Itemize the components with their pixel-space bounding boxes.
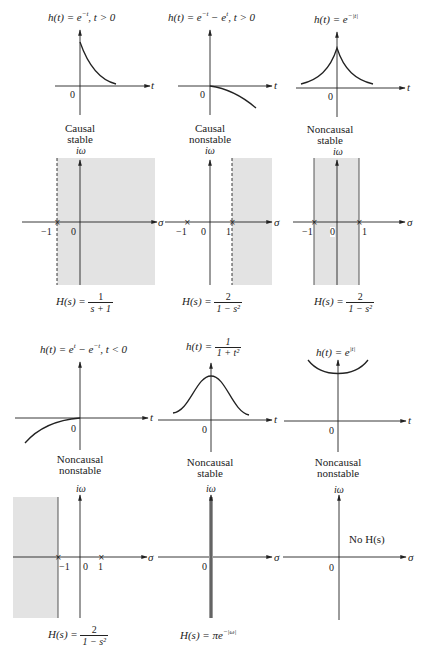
real-axis-label-2: σ	[274, 217, 279, 228]
diverging-curve	[210, 86, 256, 108]
tick-zero-5: 0	[202, 562, 207, 572]
tick-neg-one-2: −1	[176, 227, 187, 237]
h-plot-growing-two-sided	[284, 360, 406, 452]
class-label-1: Causalstable	[35, 123, 125, 145]
class-label-5: Noncausalstable	[165, 457, 255, 479]
h-plot-noncausal-nonstable-left	[15, 362, 148, 450]
t-axis-label-1: t	[151, 80, 154, 91]
origin-label-1: 0	[70, 90, 75, 100]
h-plot-causal-stable	[55, 30, 150, 115]
t-axis-label-5: t	[274, 414, 277, 425]
h-plot-noncausal-stable	[296, 32, 405, 117]
real-axis-label-1: σ	[158, 217, 163, 228]
s-plane-roc-right-of-minus-one: ×	[22, 158, 157, 285]
h-title-5: h(t) = 11 + t²	[186, 337, 241, 358]
h-title-4: h(t) = et − e−t, t < 0	[40, 343, 127, 355]
t-axis-label-3: t	[407, 82, 410, 93]
s-plane-roc-imaginary-axis	[158, 495, 272, 618]
real-axis-label-3: σ	[407, 217, 412, 228]
tick-zero-6: 0	[329, 563, 334, 573]
tick-neg-one-4: −1	[59, 562, 70, 572]
imag-axis-label-5: iω	[206, 484, 216, 494]
tick-zero-4: 0	[83, 562, 88, 572]
imag-axis-label-6: iω	[334, 485, 344, 495]
origin-label-3: 0	[328, 92, 333, 102]
h-title-6: h(t) = e|t|	[316, 346, 355, 358]
transfer-function-1: H(s) = 1s + 1	[56, 291, 113, 314]
decaying-exponential-curve	[80, 42, 116, 84]
h-title-1: h(t) = e−t, t > 0	[48, 11, 115, 23]
imag-axis-label-4: iω	[76, 484, 86, 494]
tick-zero-1: 0	[71, 227, 76, 237]
tick-zero-2: 0	[201, 227, 206, 237]
h-title-2: h(t) = e−t − et, t > 0	[168, 11, 255, 23]
class-label-6: Noncausalnonstable	[293, 457, 383, 479]
tick-neg-one-3: −1	[302, 227, 313, 237]
t-axis-label-6: t	[408, 415, 411, 426]
s-plane-roc-strip: × ×	[293, 158, 405, 285]
svg-text:×: ×	[54, 218, 61, 227]
class-label-2: Causalnonstable	[165, 123, 255, 145]
class-label-3: Noncausalstable	[285, 124, 375, 146]
s-plane-no-transform	[283, 495, 406, 620]
tick-zero-3: 0	[330, 227, 335, 237]
h-plot-causal-nonstable	[178, 30, 272, 115]
t-axis-label-2: t	[274, 80, 277, 91]
real-axis-label-6: σ	[408, 552, 413, 563]
imag-axis-label-3: iω	[333, 147, 343, 157]
s-plane-roc-right-of-one: × ×	[165, 158, 272, 285]
h-title-3: h(t) = e−|t|	[314, 13, 358, 25]
tick-one-2: 1	[226, 227, 231, 237]
h-plot-lorentzian	[158, 363, 272, 452]
imag-axis-label-1: iω	[76, 146, 86, 156]
origin-label-2: 0	[200, 90, 205, 100]
tick-neg-one-1: −1	[41, 227, 52, 237]
transfer-function-4: H(s) = 21 − s²	[48, 624, 108, 647]
t-axis-label-4: t	[150, 412, 153, 423]
transfer-function-5: H(s) = πe−|ω|	[180, 628, 236, 641]
real-axis-label-4: σ	[148, 552, 153, 563]
origin-label-6: 0	[329, 426, 334, 436]
origin-label-5: 0	[202, 425, 207, 435]
figure-canvas: × × × × ×	[0, 0, 430, 653]
no-transform-note: No H(s)	[349, 534, 385, 545]
tick-one-3: 1	[362, 227, 367, 237]
tick-one-4: 1	[98, 562, 103, 572]
imag-axis-label-2: iω	[205, 146, 215, 156]
origin-label-4: 0	[71, 424, 76, 434]
transfer-function-2: H(s) = 21 − s²	[182, 291, 242, 314]
transfer-function-3: H(s) = 21 − s²	[314, 291, 374, 314]
real-axis-label-5: σ	[274, 552, 279, 563]
class-label-4: Noncausalnonstable	[35, 454, 125, 476]
s-plane-roc-left-of-minus-one: × ×	[13, 495, 147, 618]
